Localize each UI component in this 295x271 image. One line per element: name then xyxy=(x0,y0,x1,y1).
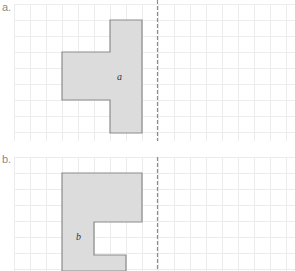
grid-b xyxy=(14,157,295,271)
shape-a-label: a xyxy=(117,71,122,82)
shape-b xyxy=(62,173,142,271)
reflection-diagram: a b xyxy=(0,0,295,271)
shape-b-label: b xyxy=(76,231,81,242)
grid-a xyxy=(14,4,295,141)
